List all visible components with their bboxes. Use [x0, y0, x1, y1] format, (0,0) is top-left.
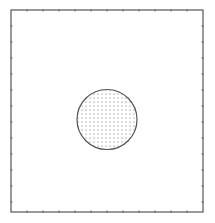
dotted-circle [77, 89, 138, 151]
diagram-canvas [0, 0, 215, 223]
